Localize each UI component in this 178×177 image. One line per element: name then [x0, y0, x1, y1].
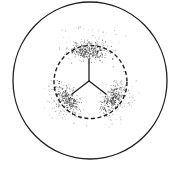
- diagram-figure: [0, 0, 178, 177]
- background: [0, 0, 178, 177]
